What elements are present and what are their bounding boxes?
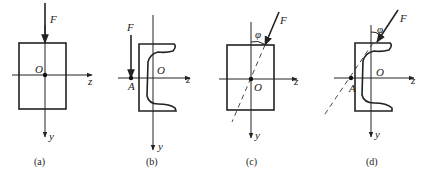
point-a [349,76,353,80]
angle-label: φ [255,28,261,40]
origin-label: O [254,81,262,93]
channel-section [355,43,392,111]
z-label: z [185,73,191,85]
line-of-action-dashed [323,43,373,117]
caption-a: (a) [34,156,45,168]
force-label: F [279,14,287,26]
y-label: y [254,129,260,141]
y-label: y [374,128,380,140]
panel-b: F O A z y (b) [118,15,191,168]
point-a-label: A [127,80,135,92]
centroid-point [249,77,253,81]
force-label: F [399,12,407,24]
force-arrow [265,12,279,45]
force-label: F [49,13,57,25]
angle-label: φ [377,23,383,35]
diagram-canvas: F O z y (a) F O A z y (b) F φ O z y (c) [0,0,430,181]
caption-c: (c) [246,156,257,168]
origin-label: O [157,64,165,76]
panel-c: F φ O z y (c) [219,12,299,168]
point-a-label: A [348,82,356,94]
origin-label: O [35,63,43,75]
z-label: z [410,74,416,86]
force-label: F [126,21,134,33]
caption-b: (b) [146,156,158,168]
z-label: z [293,75,299,87]
y-label: y [48,130,54,142]
centroid-point [43,73,47,77]
origin-label: O [376,66,384,78]
panel-a: F O z y (a) [12,3,93,168]
caption-d: (d) [366,156,378,168]
rectangular-section [19,43,66,109]
angle-arc [251,41,264,44]
z-label: z [87,75,93,87]
panel-d: F φ O A z y (d) [323,10,416,168]
y-label: y [157,140,163,152]
